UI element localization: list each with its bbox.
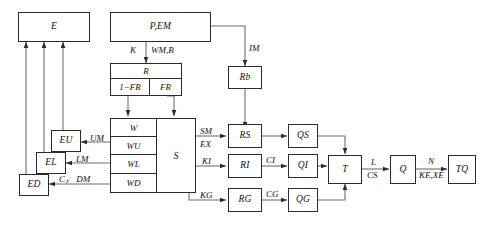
label-ki: KI <box>202 157 211 166</box>
label-lm: LM <box>76 155 89 164</box>
box-rs[interactable]: RS <box>228 124 262 148</box>
box-q[interactable]: Q <box>390 155 416 184</box>
box-e[interactable]: E <box>18 12 90 42</box>
box-r-fr[interactable]: FR <box>150 79 181 95</box>
box-s[interactable]: S <box>157 119 195 192</box>
box-w[interactable]: W <box>111 119 157 137</box>
box-wl[interactable]: WL <box>111 155 157 174</box>
box-rb[interactable]: Rb <box>228 66 262 89</box>
box-ed[interactable]: ED <box>19 174 49 196</box>
label-cg: CG <box>266 190 279 199</box>
label-cs: CS <box>367 171 378 180</box>
label-k: K <box>130 46 136 55</box>
label-sm: SM <box>200 127 212 136</box>
box-rg[interactable]: RG <box>228 188 262 212</box>
diagram-canvas: E P,EM R 1−FR FR Rb EU EL ED W WU WL WD … <box>0 0 484 236</box>
label-wm-b: WM,B <box>151 46 174 55</box>
box-el[interactable]: EL <box>36 152 66 174</box>
box-qi[interactable]: QI <box>288 154 318 178</box>
label-ke-xe: KE,XE <box>419 171 444 180</box>
label-um: UM <box>90 134 104 143</box>
box-wd[interactable]: WD <box>111 174 157 192</box>
box-eu[interactable]: EU <box>51 130 81 152</box>
box-r[interactable]: R <box>111 64 181 79</box>
box-tq[interactable]: TQ <box>448 155 476 184</box>
label-ci: CI <box>266 156 275 165</box>
label-n: N <box>428 157 434 166</box>
box-wu[interactable]: WU <box>111 137 157 155</box>
box-p-em[interactable]: P,EM <box>110 12 211 42</box>
label-kg: KG <box>200 191 213 200</box>
box-r-one-minus-fr[interactable]: 1−FR <box>111 79 150 95</box>
box-t[interactable]: T <box>328 155 362 184</box>
label-c-dm: C， DM <box>59 175 90 184</box>
label-im: IM <box>249 44 260 53</box>
label-l: L <box>371 158 376 167</box>
box-qs[interactable]: QS <box>288 124 318 148</box>
box-ri[interactable]: RI <box>228 154 262 178</box>
box-qg[interactable]: QG <box>288 188 318 212</box>
label-ex: EX <box>200 140 211 149</box>
